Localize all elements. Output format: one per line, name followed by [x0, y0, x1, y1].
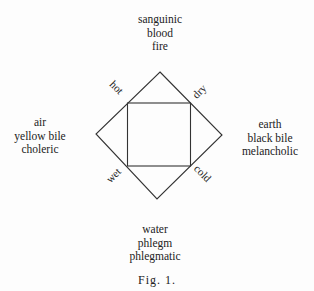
quality-cold: cold: [192, 162, 214, 184]
quality-hot: hot: [108, 78, 126, 96]
quality-wet: wet: [103, 165, 123, 185]
inner-square: [128, 103, 191, 166]
diamond-diagram: hot dry wet cold: [0, 0, 314, 291]
figure-caption: Fig. 1.: [0, 273, 314, 288]
quality-dry: dry: [190, 81, 209, 100]
